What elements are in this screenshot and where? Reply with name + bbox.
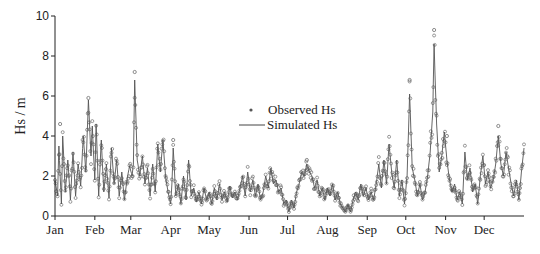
observed-point <box>523 143 526 146</box>
y-tick-label: 0 <box>42 209 49 223</box>
y-tick-label: 4 <box>42 129 49 143</box>
legend-observed-marker <box>249 108 252 111</box>
x-tick-label-nov: Nov <box>434 222 457 237</box>
observed-point <box>249 194 252 197</box>
observed-point <box>274 175 277 178</box>
y-axis-title: Hs / m <box>13 97 28 134</box>
x-tick-label-feb: Feb <box>85 222 105 237</box>
observed-point <box>434 99 437 102</box>
observed-point <box>463 144 466 147</box>
observed-point <box>433 34 436 37</box>
x-tick-label-jan: Jan <box>46 222 64 237</box>
x-tick-label-oct: Oct <box>396 222 415 237</box>
y-tick-label: 6 <box>42 89 49 103</box>
observed-peak-point <box>497 124 500 127</box>
observed-point <box>490 188 493 191</box>
x-axis-ticks: JanFebMarAprMayJunJulAugSepOctNovDec <box>46 216 495 237</box>
x-tick-label-dec: Dec <box>474 222 495 237</box>
legend: Observed Hs Simulated Hs <box>239 102 337 132</box>
observed-point <box>398 197 401 200</box>
observed-point <box>79 186 82 189</box>
hs-time-series-chart: 0246810 JanFebMarAprMayJunJulAugSepOctNo… <box>0 0 540 254</box>
observed-point <box>149 197 152 200</box>
observed-point <box>74 197 77 200</box>
observed-point <box>91 120 94 123</box>
observed-point <box>118 197 121 200</box>
observed-point <box>172 143 175 146</box>
observed-point <box>377 156 380 159</box>
observed-peak-point <box>59 122 62 125</box>
x-tick-label-apr: Apr <box>161 222 182 237</box>
observed-peak-point <box>172 138 175 141</box>
observed-point <box>316 176 319 179</box>
observed-point <box>505 147 508 150</box>
y-tick-label: 10 <box>36 9 50 23</box>
observed-point <box>246 165 249 168</box>
observed-point <box>388 135 391 138</box>
x-tick-label-may: May <box>197 222 221 237</box>
observed-point <box>61 131 64 134</box>
y-tick-label: 2 <box>42 169 49 183</box>
legend-observed-label: Observed Hs <box>268 102 336 117</box>
observed-point <box>264 173 267 176</box>
observed-point <box>69 200 72 203</box>
observed-point <box>481 153 484 156</box>
x-tick-label-jul: Jul <box>280 222 296 237</box>
observed-point <box>468 164 471 167</box>
observed-point <box>97 196 100 199</box>
observed-point <box>221 200 224 203</box>
observed-point <box>108 198 111 201</box>
observed-point <box>192 184 195 187</box>
observed-point <box>403 204 406 207</box>
x-tick-label-aug: Aug <box>316 222 339 237</box>
y-tick-label: 8 <box>42 49 49 63</box>
observed-point <box>487 169 490 172</box>
x-tick-label-sep: Sep <box>357 222 377 237</box>
observed-peak-point <box>87 96 90 99</box>
observed-peak-point <box>433 28 436 31</box>
observed-peak-point <box>445 134 448 137</box>
observed-peak-point <box>133 70 136 73</box>
x-tick-label-mar: Mar <box>120 222 142 237</box>
observed-point <box>218 180 221 183</box>
legend-simulated-label: Simulated Hs <box>267 117 337 132</box>
observed-point <box>90 163 93 166</box>
x-tick-label-jun: Jun <box>240 222 259 237</box>
y-axis-ticks: 0246810 <box>36 9 55 223</box>
observed-point <box>213 185 216 188</box>
observed-point <box>190 196 193 199</box>
